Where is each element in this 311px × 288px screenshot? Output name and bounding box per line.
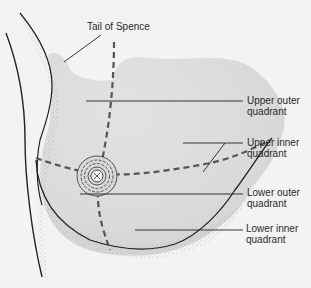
label-tail-of-spence: Tail of Spence <box>87 21 150 32</box>
chest-wall <box>18 12 58 280</box>
label-upper-inner-quadrant: Upper inner quadrant <box>247 137 299 159</box>
leader-tail-of-spence <box>64 35 101 62</box>
label-lower-outer-quadrant: Lower outer quadrant <box>247 187 300 209</box>
body-outline <box>6 33 42 277</box>
label-lower-inner-quadrant: Lower inner quadrant <box>246 223 298 245</box>
nipple-areola <box>77 156 117 196</box>
label-upper-outer-quadrant: Upper outer quadrant <box>247 95 300 117</box>
